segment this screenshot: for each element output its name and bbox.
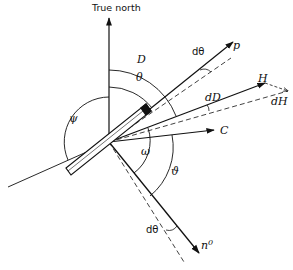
angle-arc-vartheta xyxy=(150,135,173,196)
psi-label: ψ xyxy=(69,112,78,125)
true-north-label: True north xyxy=(91,2,141,13)
D-label: D xyxy=(136,53,146,66)
p-label: p xyxy=(233,39,240,52)
dH-label: dH xyxy=(271,95,288,108)
angle-arc-dtheta-top xyxy=(200,69,211,72)
C-label: C xyxy=(220,124,229,137)
angle-arc-dtheta-bottom xyxy=(166,226,177,230)
vector-diagram: True north p H dH C n0 D θ ψ xyxy=(0,0,293,270)
angle-arc-dD xyxy=(207,105,209,111)
n0-label: n0 xyxy=(201,238,213,252)
omega-label: ω xyxy=(141,145,150,158)
dtheta-bottom-label: dθ xyxy=(146,224,158,235)
theta-label: θ xyxy=(136,71,143,84)
dtheta-top-label: dθ xyxy=(192,46,204,57)
vector-n0: n0 xyxy=(109,142,213,262)
dD-label: dD xyxy=(205,91,221,104)
vartheta-label: ϑ xyxy=(171,165,179,178)
H-label: H xyxy=(257,72,268,85)
